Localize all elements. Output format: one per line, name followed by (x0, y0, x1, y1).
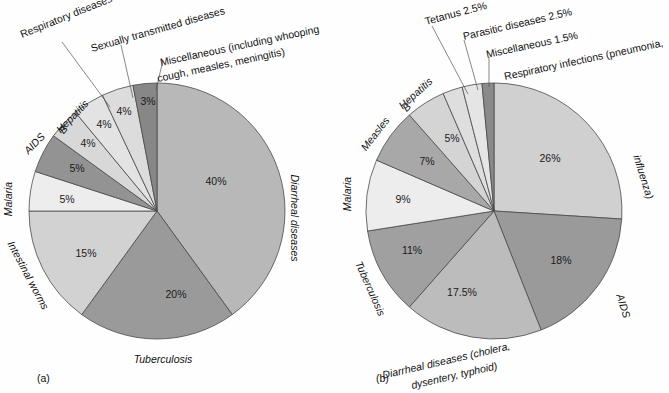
slice-value-tuberculosis-b: 11% (402, 244, 422, 256)
leader-parasitic-b (464, 40, 478, 90)
figure-svg: 40% 20% 15% 5% 5% 4% 4% 4% 3% Respirator… (0, 0, 669, 393)
slice-value-measles-b: 7% (419, 155, 434, 167)
label-aids-b: AIDS (614, 291, 633, 319)
slice-value-respiratory-a: 4% (96, 118, 111, 130)
slice-value-hepatitis-a: 4% (80, 137, 95, 149)
label-tuberculosis-a: Tuberculosis (134, 353, 193, 365)
slice-value-std-a: 4% (116, 105, 131, 117)
slice-value-tuberculosis-a: 20% (165, 288, 186, 300)
slice-value-malaria-b: 9% (395, 193, 410, 205)
slice-value-worms-a: 15% (75, 247, 96, 259)
panel-b-pie (366, 83, 622, 339)
label-respiratory-a: Respiratory diseases (18, 0, 113, 40)
label-malaria-a: Malaria (2, 182, 14, 217)
slice-value-diarrheal-a: 40% (205, 175, 226, 187)
slice-value-respiratory-b: 26% (539, 152, 560, 164)
panel-a-caption: (a) (37, 372, 50, 384)
slice-value-hepatitis-b: 5% (444, 132, 459, 144)
slice-value-malaria-a: 5% (59, 193, 74, 205)
label-respiratory-b-rot: influenza) (631, 153, 656, 200)
two-pie-chart-figure: 40% 20% 15% 5% 5% 4% 4% 4% 3% Respirator… (0, 0, 669, 393)
panel-b-caption: (b) (376, 372, 389, 384)
slice-value-aids-a: 5% (69, 162, 84, 174)
slice-value-misc-a: 3% (140, 95, 155, 107)
slice-value-diarrheal-b: 17.5% (447, 286, 477, 298)
label-diarrheal-a: Diarrheal diseases (289, 175, 301, 263)
label-tetanus-b: Tetanus 2.5% (423, 0, 488, 27)
slice-value-aids-b: 18% (550, 254, 571, 266)
leader-respiratory-a (62, 42, 110, 107)
label-malaria-b: Malaria (341, 177, 353, 212)
